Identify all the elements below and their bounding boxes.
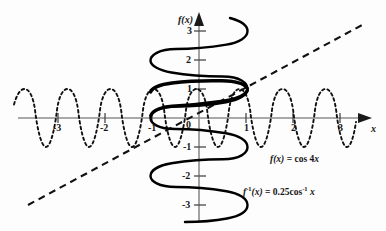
equation-inverse-coef: 0.25cos: [273, 187, 302, 197]
y-tick-label-3: 3: [187, 26, 192, 36]
x-tick-label-neg1: -1: [148, 123, 156, 133]
equation-inverse-function: f-1(x) = 0.25cos-1 x: [243, 186, 315, 198]
x-tick-label-1: 1: [244, 123, 249, 133]
equation-inverse-var: x: [310, 187, 315, 197]
function-plot: [0, 0, 386, 231]
y-tick-label-neg1: -1: [183, 142, 191, 152]
y-axis-label: f(x): [178, 15, 193, 25]
equation-forward-rhs: cos 4: [294, 154, 314, 164]
y-tick-label-1: 1: [187, 84, 192, 94]
x-tick-label-neg2: -2: [100, 123, 108, 133]
x-tick-label-2: 2: [291, 123, 296, 133]
equation-inverse-exponent2: -1: [302, 185, 307, 192]
x-tick-label-3: 3: [338, 123, 343, 133]
y-tick-label-2: 2: [186, 55, 191, 65]
equation-forward-function: f(x) = cos 4x: [270, 155, 319, 165]
equation-forward-var: x: [314, 154, 319, 164]
y-tick-label-neg3: -3: [182, 200, 190, 210]
equation-forward-equals: =: [287, 154, 292, 164]
y-tick-label-neg2: -2: [182, 171, 190, 181]
y-tick-label-0: 0: [186, 120, 191, 130]
x-tick-label-neg3: -3: [53, 123, 61, 133]
equation-inverse-arg: (x): [252, 187, 263, 197]
equation-inverse-equals: =: [265, 187, 270, 197]
equation-forward-arg: (x): [273, 154, 284, 164]
x-axis-label: x: [371, 124, 376, 134]
